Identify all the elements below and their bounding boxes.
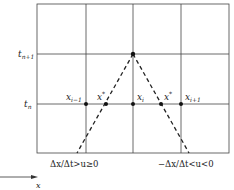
label-x-i-plus-1: xi+1 <box>185 92 201 103</box>
arrow-head-icon <box>31 175 38 179</box>
label-x-star-left: x* <box>97 90 105 102</box>
label-x-i-minus-1: xi−1 <box>66 92 82 103</box>
grid <box>37 4 229 153</box>
caption-left: Δx/Δt>u≥0 <box>50 159 98 169</box>
x-axis-label: x <box>36 181 41 190</box>
label-x-star-right: x* <box>164 90 172 102</box>
characteristic-diagram: tn+1 tn xi−1 x* xi x* xi+1 Δx/Δt>u≥0 −Δx… <box>0 0 234 190</box>
label-t-n: tn <box>24 99 32 110</box>
point-x-i <box>131 102 135 106</box>
caption-right: −Δx/Δt<u<0 <box>158 159 214 169</box>
point-peak <box>131 52 135 56</box>
point-x-i-minus-1 <box>84 102 88 106</box>
point-x-star-left <box>104 102 108 106</box>
point-x-i-plus-1 <box>179 102 183 106</box>
x-axis-arrow <box>0 175 38 179</box>
point-x-star-right <box>159 102 163 106</box>
label-t-n-plus-1: tn+1 <box>18 49 34 60</box>
label-x-i: xi <box>137 92 144 103</box>
